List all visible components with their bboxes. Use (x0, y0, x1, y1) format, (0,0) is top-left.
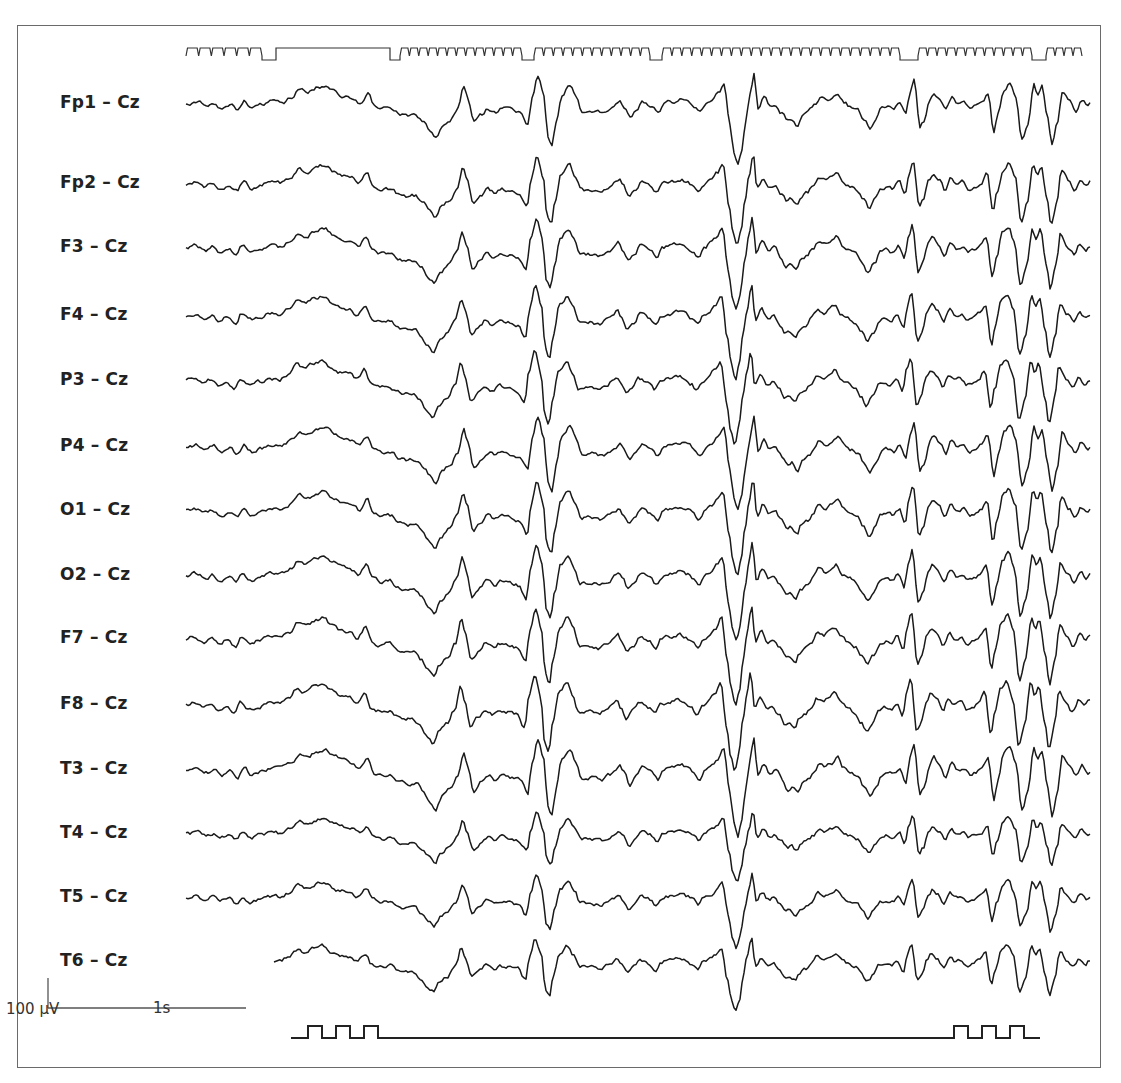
eeg-trace (186, 482, 1090, 574)
channel-label: Fp2 – Cz (60, 172, 160, 192)
channel-label: T6 – Cz (60, 950, 160, 970)
channel-label: F3 – Cz (60, 236, 160, 256)
channel-label: F4 – Cz (60, 304, 160, 324)
scale-time-label: 1s (153, 999, 170, 1017)
stimulus-marker-line (291, 1026, 1040, 1038)
stimulus-marker-trace (291, 1026, 1040, 1038)
eeg-trace (186, 812, 1090, 881)
photic-marker-trace (186, 48, 1082, 60)
scale-bar (48, 978, 246, 1008)
eeg-trace (186, 73, 1090, 164)
channel-label: P3 – Cz (60, 369, 160, 389)
eeg-plot (0, 0, 1121, 1083)
channel-label: F7 – Cz (60, 627, 160, 647)
eeg-trace (274, 938, 1090, 1010)
eeg-trace (186, 157, 1090, 243)
eeg-trace (186, 673, 1090, 770)
eeg-trace (186, 543, 1090, 640)
eeg-trace (186, 873, 1090, 948)
channel-label: P4 – Cz (60, 435, 160, 455)
channel-label: F8 – Cz (60, 693, 160, 713)
eeg-trace (186, 738, 1090, 837)
channel-label: Fp1 – Cz (60, 92, 160, 112)
scale-amplitude-label: 100 µV (6, 1000, 59, 1018)
channel-label: T3 – Cz (60, 758, 160, 778)
eeg-trace (186, 416, 1090, 509)
channel-label: O1 – Cz (60, 499, 160, 519)
channel-label: T5 – Cz (60, 886, 160, 906)
eeg-trace (186, 607, 1090, 705)
eeg-trace (186, 351, 1090, 444)
eeg-trace (186, 217, 1090, 309)
channel-label: O2 – Cz (60, 564, 160, 584)
photic-marker-line (186, 48, 1082, 60)
channel-label: T4 – Cz (60, 822, 160, 842)
eeg-trace (186, 286, 1090, 380)
eeg-traces (186, 73, 1090, 1010)
